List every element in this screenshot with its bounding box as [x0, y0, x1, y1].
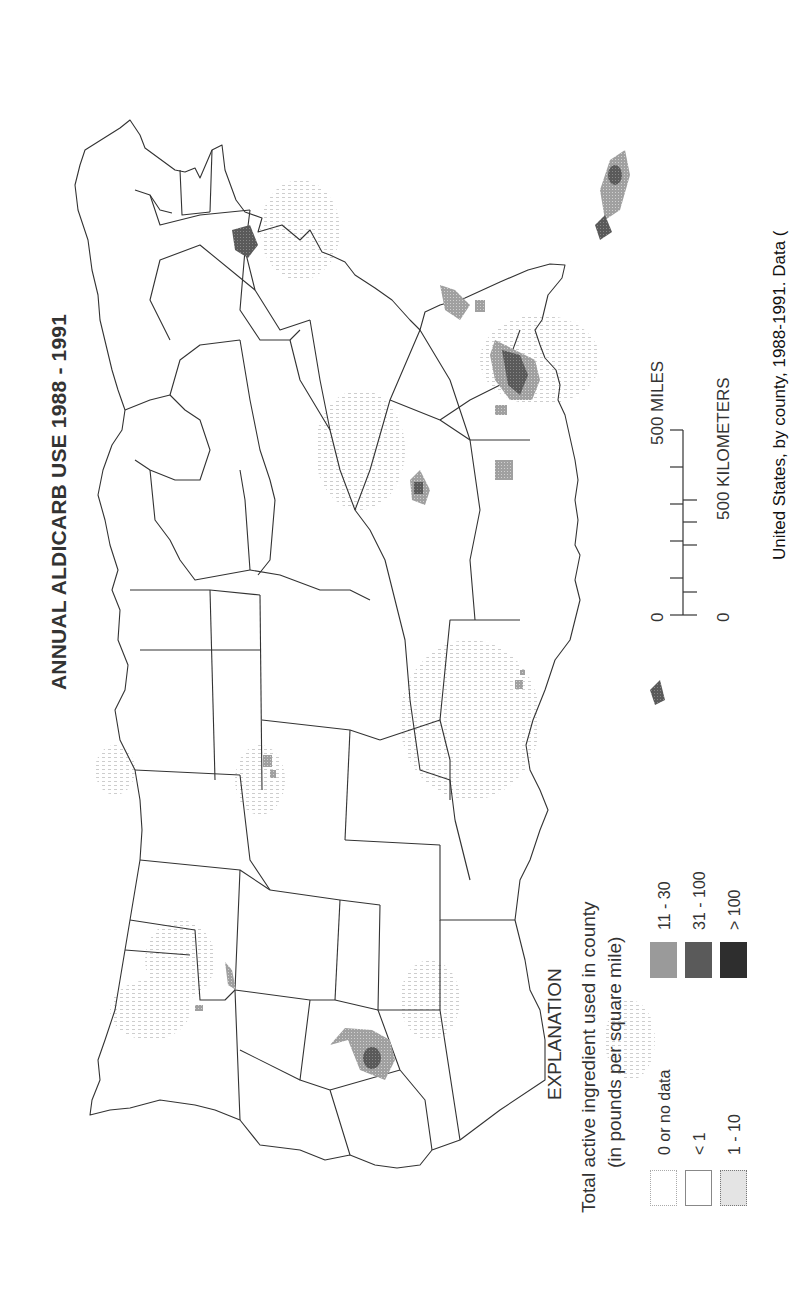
map-title: ANNUAL ALDICARB USE 1988 - 1991: [47, 314, 71, 690]
legend-swatch-gt100: [720, 942, 747, 978]
legend-swatch-31-100: [685, 942, 712, 978]
legend-label-11-30: 11 - 30: [656, 881, 674, 930]
scale-miles-label: 500 MILES: [648, 361, 668, 445]
legend-subtitle-1: Total active ingredient used in county: [578, 901, 600, 1213]
legend-swatch-lt1: [685, 1170, 712, 1206]
figure-caption: United States, by county, 1988-1991. Dat…: [770, 231, 790, 561]
legend-swatch-1-10: [720, 1170, 747, 1206]
scale-km-label: 500 KILOMETERS: [714, 377, 734, 520]
legend-swatch-none: [650, 1170, 677, 1206]
legend-swatch-11-30: [650, 942, 677, 978]
scale-bar: [670, 430, 697, 615]
legend-label-none: 0 or no data: [656, 1070, 674, 1155]
legend-label-31-100: 31 - 100: [691, 871, 709, 930]
scale-miles-zero: 0: [648, 613, 668, 622]
legend-label-lt1: < 1: [691, 1132, 709, 1155]
legend-heading: EXPLANATION: [544, 968, 566, 1100]
scale-km-zero: 0: [714, 613, 734, 622]
legend-subtitle-2: (in pounds per square mile): [604, 937, 626, 1168]
legend-label-gt100: > 100: [726, 890, 744, 930]
light-use-shading: [95, 180, 655, 1080]
legend-label-1-10: 1 - 10: [726, 1114, 744, 1155]
